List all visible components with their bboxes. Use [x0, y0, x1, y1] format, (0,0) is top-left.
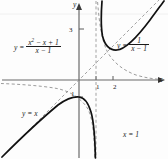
- y-tick-label-neg1: 1: [71, 91, 75, 98]
- slant-asymptote-label: y = x: [22, 110, 37, 118]
- y-axis-arrow: [76, 3, 82, 10]
- axis-group: [2, 3, 165, 158]
- graph-canvas: [0, 0, 168, 159]
- main-curve-label: y = x2 − x + 1 x − 1: [14, 40, 61, 56]
- main-curve-denominator: x − 1: [26, 47, 61, 55]
- main-curve-exponent: 2: [31, 36, 34, 42]
- vertical-asymptote-label: x = 1: [123, 131, 139, 139]
- reciprocal-curve-label-lhs: y =: [117, 42, 127, 50]
- y-axis-label: y: [73, 1, 76, 9]
- reciprocal-curve-label: y = 1 x − 1: [117, 38, 149, 54]
- main-curve-label-lhs: y =: [14, 44, 24, 52]
- x-axis-label: x: [159, 76, 162, 84]
- reciprocal-left-branch: [1, 84, 95, 159]
- x-tick-label-1: 1: [96, 84, 100, 91]
- rational-function-figure: y = x2 − x + 1 x − 1 y = 1 x − 1 y = x x…: [0, 0, 168, 159]
- main-curve-fraction: x2 − x + 1 x − 1: [26, 39, 61, 55]
- y-tick-label-3: 3: [69, 27, 73, 34]
- x-tick-label-2: 2: [113, 84, 117, 91]
- main-curve-left-branch: [2, 97, 95, 158]
- reciprocal-curve-denominator: x − 1: [129, 45, 149, 53]
- reciprocal-curve-fraction: 1 x − 1: [129, 37, 149, 53]
